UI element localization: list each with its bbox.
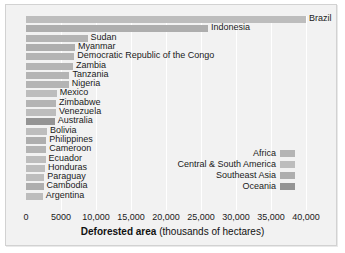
gridline xyxy=(306,16,307,210)
bar xyxy=(26,109,56,116)
bar xyxy=(26,44,75,51)
legend-swatch xyxy=(280,172,295,179)
x-tick-label: 25,000 xyxy=(187,212,215,222)
bar xyxy=(26,63,73,70)
x-tick-label: 35,000 xyxy=(257,212,285,222)
legend-item: Southeast Asia xyxy=(150,170,295,180)
legend-item: Central & South America xyxy=(150,159,295,169)
legend-item: Oceania xyxy=(150,181,295,191)
x-tick-label: 30,000 xyxy=(222,212,250,222)
legend-label: Africa xyxy=(253,148,276,158)
bar xyxy=(26,100,56,107)
x-tick-label: 0 xyxy=(23,212,28,222)
bar xyxy=(26,156,46,163)
bar-label: Indonesia xyxy=(211,22,250,33)
legend-swatch xyxy=(280,150,295,157)
bar xyxy=(26,165,45,172)
bar xyxy=(26,174,44,181)
bar xyxy=(26,128,47,135)
legend-label: Southeast Asia xyxy=(216,170,276,180)
legend-item: Africa xyxy=(150,148,295,158)
bar xyxy=(26,90,57,97)
bar-row: Indonesia xyxy=(26,25,306,32)
bar xyxy=(26,193,43,200)
bar-label: Brazil xyxy=(309,13,332,24)
bar-row: Sudan xyxy=(26,35,306,42)
x-tick-label: 40,000 xyxy=(292,212,320,222)
bar xyxy=(26,137,46,144)
legend-swatch xyxy=(280,161,295,168)
bar xyxy=(26,146,46,153)
bar-row: Brazil xyxy=(26,16,306,23)
bar xyxy=(26,53,74,60)
bar xyxy=(26,183,44,190)
bar-row: Democratic Republic of the Congo xyxy=(26,53,306,60)
legend-label: Oceania xyxy=(242,181,276,191)
x-tick-label: 15,000 xyxy=(117,212,145,222)
legend-label: Central & South America xyxy=(177,159,276,169)
chart-figure: BrazilIndonesiaSudanMyanmarDemocratic Re… xyxy=(0,0,345,253)
x-tick-label: 20,000 xyxy=(152,212,180,222)
bar xyxy=(26,72,69,79)
x-axis-title: Deforested area (thousands of hectares) xyxy=(0,226,345,237)
x-tick-label: 10,000 xyxy=(82,212,110,222)
x-axis-title-rest: (thousands of hectares) xyxy=(159,226,264,237)
x-tick-label: 5000 xyxy=(51,212,71,222)
bar xyxy=(26,25,208,32)
bar-row: Tanzania xyxy=(26,72,306,79)
bar-row: Zambia xyxy=(26,63,306,70)
bar-row: Argentina xyxy=(26,193,306,200)
x-axis-ticks: 0500010,00015,00020,00025,00030,00035,00… xyxy=(0,212,345,225)
legend-swatch xyxy=(280,183,295,190)
bar-label: Argentina xyxy=(46,190,85,201)
chart-legend: AfricaCentral & South AmericaSoutheast A… xyxy=(150,148,295,192)
x-axis-title-strong: Deforested area xyxy=(81,226,157,237)
bar xyxy=(26,16,306,23)
